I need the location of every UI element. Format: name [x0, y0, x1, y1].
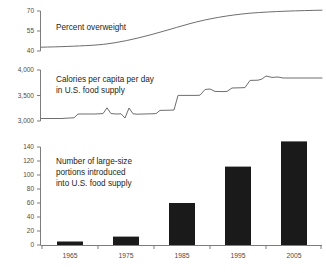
bottom-ytick-label-80: 80 [27, 185, 35, 192]
bottom-ytick-label-0: 0 [30, 241, 34, 248]
top-panel-label: Percent overweight [56, 23, 127, 32]
bottom-panel-label-line3: into U.S. food supply [56, 179, 132, 188]
bottom-xtick-label-1975: 1975 [118, 252, 133, 259]
middle-ytick-label-3000: 3,000 [18, 117, 35, 124]
top-ytick-label-40: 40 [27, 47, 35, 54]
bottom-xtick-label-1965: 1965 [62, 252, 77, 259]
middle-ytick-label-3500: 3,500 [18, 92, 35, 99]
bottom-ytick-label-40: 40 [27, 213, 35, 220]
figure-background [0, 0, 326, 273]
middle-panel-label-line1: Calories per capita per day [56, 75, 155, 84]
bottom-panel-label-line2: portions introduced [56, 168, 126, 177]
bottom-xtick-label-1985: 1985 [174, 252, 189, 259]
bar-1965 [57, 242, 83, 246]
middle-panel-label-line2: in U.S. food supply [56, 86, 126, 95]
bottom-xtick-label-2005: 2005 [286, 252, 301, 259]
bottom-ytick-label-140: 140 [23, 143, 34, 150]
bottom-panel-label-line1: Number of large-size [56, 157, 132, 166]
bottom-ytick-label-100: 100 [23, 171, 34, 178]
bottom-xtick-label-1995: 1995 [230, 252, 245, 259]
top-ytick-label-70: 70 [27, 7, 35, 14]
three-panel-figure: 70 55 40 Percent overweight 4,000 3,500 … [0, 0, 326, 273]
middle-ytick-label-4000: 4,000 [18, 66, 35, 73]
bar-1985 [169, 203, 195, 245]
bottom-ytick-label-60: 60 [27, 199, 35, 206]
bar-1975 [113, 237, 139, 245]
top-ytick-label-55: 55 [27, 27, 35, 34]
bottom-ytick-label-120: 120 [23, 157, 34, 164]
bottom-ytick-label-20: 20 [27, 227, 35, 234]
bar-1995 [225, 167, 251, 245]
bar-2005 [281, 141, 307, 245]
